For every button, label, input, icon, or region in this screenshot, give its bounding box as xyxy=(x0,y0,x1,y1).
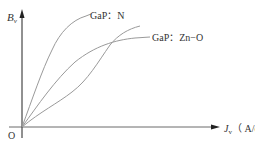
y-axis-label-sub: v xyxy=(14,17,17,25)
x-axis-unit: （ A/cm xyxy=(232,123,255,134)
x-axis-arrow-icon xyxy=(211,125,220,130)
origin-label: O xyxy=(8,131,15,141)
curve-gap-n xyxy=(22,14,91,127)
y-axis-label: Bv xyxy=(7,12,17,25)
curve-gap-zno xyxy=(22,37,150,127)
legend-gap-zno: GaP：Zn−O xyxy=(152,33,203,43)
y-axis-arrow-icon xyxy=(20,9,25,18)
y-axis-label-main: B xyxy=(7,11,14,23)
chart-canvas xyxy=(0,0,255,148)
x-axis-label: Jv（ A/cm2 ） xyxy=(224,123,255,136)
curve-unlabeled xyxy=(22,26,140,127)
legend-gap-n: GaP：N xyxy=(90,11,124,21)
